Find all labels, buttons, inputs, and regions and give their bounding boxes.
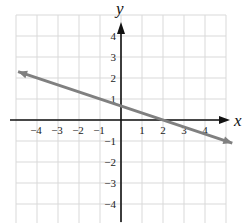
y-tick-label: −2 <box>104 156 116 168</box>
x-axis-label: x <box>233 111 242 130</box>
x-tick-label: 2 <box>160 124 166 136</box>
x-tick-label: −2 <box>72 124 84 136</box>
coordinate-plane: −4−3−2−112344321−1−2−3−4 x y <box>0 0 248 223</box>
line-arrow-right-icon <box>222 136 232 144</box>
y-axis-arrow-icon <box>117 22 125 34</box>
y-tick-label: −4 <box>104 198 116 210</box>
x-tick-label: 1 <box>139 124 145 136</box>
y-tick-label: −3 <box>104 177 116 189</box>
x-tick-label: −3 <box>51 124 63 136</box>
y-tick-label: −1 <box>104 135 116 147</box>
y-tick-label: 2 <box>111 72 117 84</box>
y-axis-label: y <box>114 0 124 18</box>
line-arrow-left-icon <box>18 71 28 79</box>
x-tick-label: −1 <box>93 124 105 136</box>
x-axis-arrow-icon <box>219 116 230 124</box>
y-tick-label: 4 <box>111 30 117 42</box>
y-tick-label: 3 <box>111 51 117 63</box>
axes <box>10 22 230 222</box>
x-tick-label: −4 <box>30 124 42 136</box>
